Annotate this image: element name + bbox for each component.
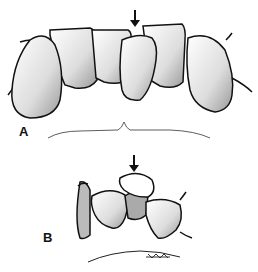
arrow-icon-a [130, 10, 140, 27]
panel-label-a: A [19, 124, 28, 139]
dental-illustration [0, 0, 258, 272]
arrow-icon-b [129, 155, 139, 172]
panel-label-b: B [43, 230, 52, 245]
gingival-outline-a [48, 122, 210, 138]
artist-signature [146, 254, 170, 258]
panel-b-drawing [77, 173, 192, 238]
panel-a-drawing [8, 24, 252, 118]
